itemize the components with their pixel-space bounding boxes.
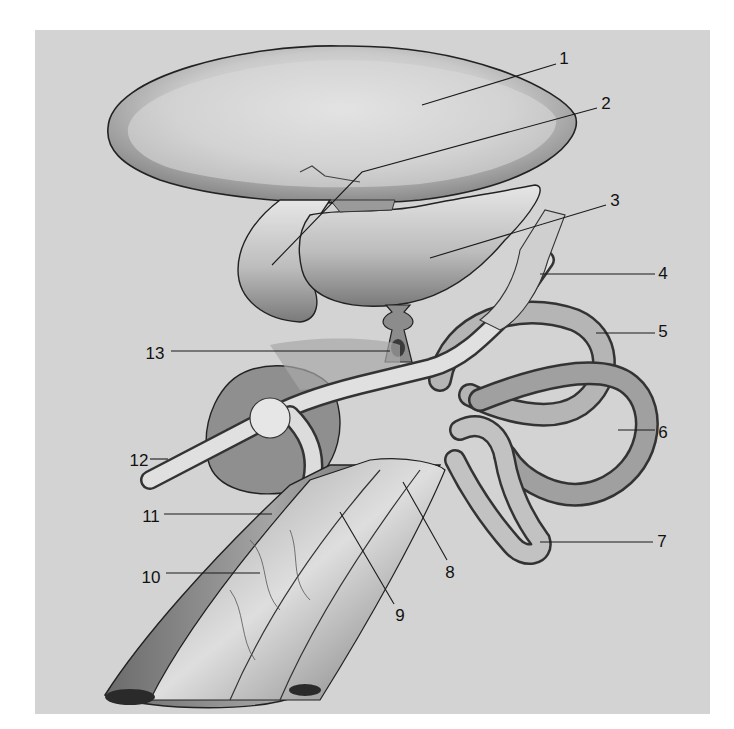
ear-anatomy-illustration <box>0 0 734 729</box>
label-5: 5 <box>658 323 667 340</box>
label-8: 8 <box>445 564 454 581</box>
label-4: 4 <box>658 265 667 282</box>
label-10: 10 <box>142 569 161 586</box>
tympanic-membrane <box>103 46 683 203</box>
label-2: 2 <box>601 95 610 112</box>
label-11: 11 <box>142 508 160 525</box>
label-9: 9 <box>395 607 404 624</box>
label-7: 7 <box>657 533 666 550</box>
label-3: 3 <box>610 192 619 209</box>
label-6: 6 <box>658 424 667 441</box>
label-1: 1 <box>559 50 568 67</box>
label-12: 12 <box>130 452 149 469</box>
label-13: 13 <box>146 345 165 362</box>
